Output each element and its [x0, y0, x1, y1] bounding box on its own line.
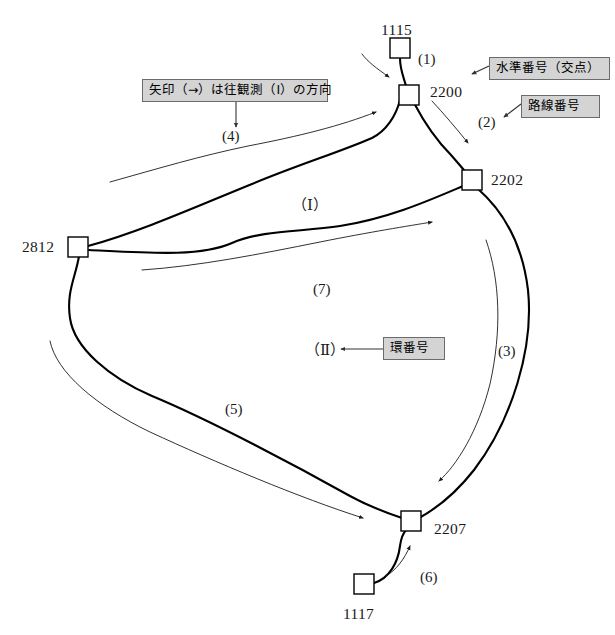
- route-line-6: [374, 529, 407, 583]
- route-label-7: (7): [313, 282, 331, 297]
- callout-leader-bench-number: [472, 66, 489, 74]
- route-label-4: (4): [222, 129, 240, 144]
- route-label-6: (6): [420, 570, 438, 585]
- callout-direction-note: 矢印（→）は往観測（Ⅰ）の方向: [142, 79, 328, 102]
- ring-label-1: （Ⅰ）: [292, 198, 328, 213]
- direction-arrow-7: [142, 222, 432, 270]
- direction-arrow-3: [439, 240, 498, 481]
- callout-ring-number: 環番号: [383, 337, 445, 360]
- callout-bench-number: 水準番号（交点）: [489, 57, 610, 80]
- node-label-1115: 1115: [381, 22, 412, 38]
- route-label-1: (1): [418, 52, 436, 67]
- route-line-7: [89, 186, 463, 253]
- ring-label-2: （Ⅱ）: [305, 343, 345, 358]
- direction-arrow-4: [110, 112, 376, 182]
- node-label-2812: 2812: [22, 239, 54, 255]
- node-label-2207: 2207: [434, 521, 466, 537]
- node-label-2202: 2202: [491, 172, 523, 188]
- direction-arrow-5: [50, 341, 363, 518]
- node-2200[interactable]: [399, 85, 419, 105]
- leveling-network-diagram: 1115 2200 2202 2812 2207 1117 (1) (2) (3…: [0, 0, 615, 635]
- direction-arrow-1: [362, 54, 389, 77]
- route-line-1: [400, 58, 406, 86]
- route-line-2: [414, 103, 468, 175]
- route-line-5: [69, 256, 402, 518]
- callout-leader-route-number: [504, 104, 521, 117]
- route-label-5: (5): [225, 402, 243, 417]
- route-label-3: (3): [498, 344, 516, 359]
- node-1117[interactable]: [354, 574, 374, 594]
- node-label-1117: 1117: [343, 606, 374, 622]
- node-2207[interactable]: [401, 511, 421, 531]
- node-1115[interactable]: [390, 38, 410, 58]
- node-2812[interactable]: [68, 237, 88, 257]
- callout-route-number: 路線番号: [521, 95, 600, 118]
- direction-arrow-2: [432, 101, 468, 143]
- node-label-2200: 2200: [430, 84, 462, 100]
- route-label-2: (2): [478, 115, 496, 130]
- node-2202[interactable]: [462, 170, 482, 190]
